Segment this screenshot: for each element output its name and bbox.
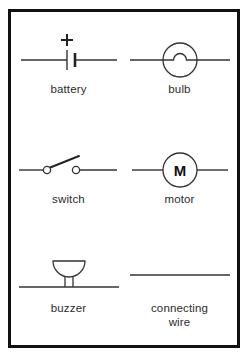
symbols-grid: battery bulb	[11, 12, 237, 345]
symbol-cell-battery: battery	[13, 16, 124, 124]
symbol-label-motor: motor	[164, 193, 194, 207]
symbol-label-connecting-wire: connecting wire	[151, 302, 208, 329]
symbol-label-bulb: bulb	[168, 83, 190, 97]
switch-symbol	[17, 138, 121, 192]
poster-frame: battery bulb	[8, 9, 240, 348]
buzzer-symbol	[17, 247, 121, 301]
symbol-cell-connecting-wire: connecting wire	[124, 231, 235, 339]
wire-symbol	[128, 247, 232, 301]
motor-symbol: M	[128, 138, 232, 192]
symbol-cell-switch: switch	[13, 124, 124, 232]
battery-symbol	[17, 28, 121, 82]
symbol-cell-buzzer: buzzer	[13, 231, 124, 339]
symbol-cell-motor: M motor	[124, 124, 235, 232]
symbol-label-switch: switch	[52, 193, 85, 207]
motor-letter: M	[173, 161, 186, 178]
circuit-symbols-poster: battery bulb	[0, 0, 249, 357]
symbol-label-buzzer: buzzer	[51, 302, 86, 316]
symbol-label-battery: battery	[50, 83, 86, 97]
bulb-symbol	[128, 28, 232, 82]
symbol-cell-bulb: bulb	[124, 16, 235, 124]
